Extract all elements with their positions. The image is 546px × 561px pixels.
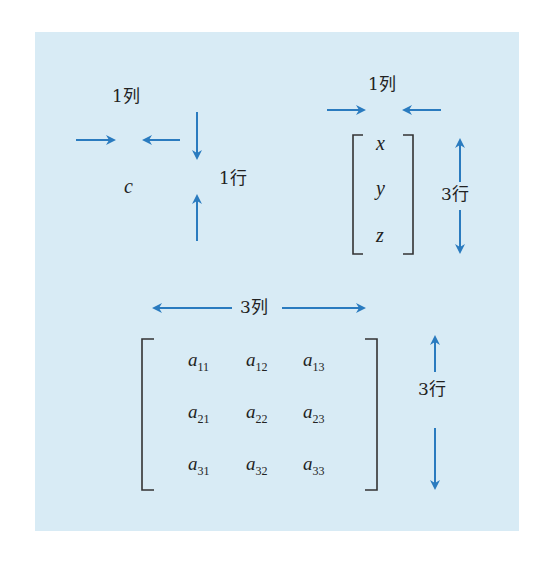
vector-entry-z: z	[376, 225, 384, 245]
matrix-entry: a13	[303, 350, 325, 373]
matrix-entry: a12	[246, 350, 268, 373]
vector-entry-y: y	[376, 178, 385, 198]
vector-entry-x: x	[376, 133, 385, 153]
matrix-row-label: 3行	[418, 381, 446, 398]
matrix-entry: a32	[246, 454, 268, 477]
matrix-entry: a33	[303, 454, 325, 477]
scalar-col-label: 1列	[112, 88, 140, 105]
vector-col-label: 1列	[368, 76, 396, 93]
matrix-entry: a21	[188, 402, 210, 425]
matrix-entry: a23	[303, 402, 325, 425]
scalar-row-label: 1行	[219, 170, 247, 187]
arrows-and-brackets	[0, 0, 546, 561]
matrix-entry: a11	[188, 350, 209, 373]
matrix-col-label: 3列	[240, 299, 268, 316]
scalar-symbol: c	[124, 176, 133, 196]
matrix-entry: a22	[246, 402, 268, 425]
matrix-entry: a31	[188, 454, 210, 477]
vector-row-label: 3行	[441, 186, 469, 203]
